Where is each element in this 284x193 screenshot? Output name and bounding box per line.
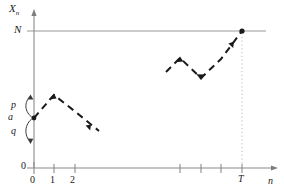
absorb-point-marker (239, 28, 244, 33)
down-probability-label: q (11, 126, 16, 136)
y-axis-label: Xn (9, 3, 19, 17)
q-arrow-head (28, 139, 34, 144)
up-probability-label: p (11, 100, 16, 110)
x-tick-label-0: 0 (30, 175, 35, 185)
x-tick-label-1: 1 (50, 175, 55, 185)
path-right-arrowhead-2 (196, 74, 205, 80)
y-axis-zero-label: 0 (21, 161, 26, 171)
path-right (166, 31, 242, 78)
x-tick-label-T: T (238, 174, 244, 184)
figure-canvas (0, 0, 284, 193)
x-axis-arrowhead (271, 165, 278, 170)
start-point-marker (32, 116, 37, 121)
y-axis-arrowhead (31, 9, 36, 16)
x-axis-label: n (268, 176, 273, 186)
start-level-label: a (8, 112, 13, 122)
x-tick-label-2: 2 (70, 175, 75, 185)
path-left-arrowhead-2 (86, 125, 91, 131)
random-walk-figure: Xn N p a q 0 0 1 2 T n (0, 0, 284, 193)
path-right-arrowhead-1 (175, 57, 183, 63)
p-arrow-head (28, 94, 34, 99)
level-label-N: N (14, 24, 21, 35)
path-left-arrowhead-1 (49, 94, 57, 100)
q-arrow-curve (26, 118, 33, 142)
